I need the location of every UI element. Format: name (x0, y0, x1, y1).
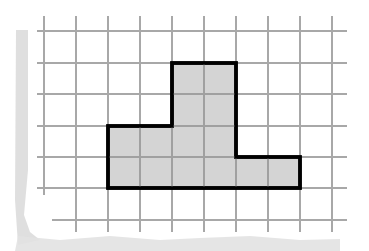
paper-shadow-left (15, 30, 40, 245)
paper-shadow-bottom (15, 236, 340, 251)
grid-diagram (0, 0, 369, 251)
